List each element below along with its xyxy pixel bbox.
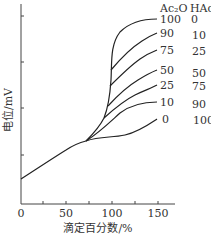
curve-ac2o-75 xyxy=(110,50,157,86)
axes xyxy=(21,4,175,204)
svg-text:0: 0 xyxy=(191,13,198,26)
x-tick-labels: 0 50 100 150 xyxy=(18,207,169,220)
svg-text:50: 50 xyxy=(59,207,73,220)
svg-text:75: 75 xyxy=(192,80,206,93)
curve-common-trunk xyxy=(21,141,86,179)
svg-text:90: 90 xyxy=(192,98,206,111)
svg-text:10: 10 xyxy=(160,96,174,109)
titration-chart: 0 50 100 150 滴定百分数/% 电位/mV xyxy=(0,0,211,236)
svg-text:150: 150 xyxy=(148,207,169,220)
y-axis-label: 电位/mV xyxy=(1,87,15,132)
svg-text:0: 0 xyxy=(18,207,25,220)
svg-text:90: 90 xyxy=(160,27,174,40)
svg-text:10: 10 xyxy=(192,29,206,42)
curve-ac2o-100 xyxy=(86,19,157,141)
svg-text:75: 75 xyxy=(160,44,174,57)
curve-ac2o-90 xyxy=(111,33,157,70)
svg-text:50: 50 xyxy=(192,67,206,80)
x-axis-label: 滴定百分数/% xyxy=(63,221,132,235)
svg-text:100: 100 xyxy=(160,13,181,26)
svg-text:100: 100 xyxy=(102,207,123,220)
svg-text:50: 50 xyxy=(160,64,174,77)
svg-text:100: 100 xyxy=(193,114,211,127)
svg-text:0: 0 xyxy=(162,113,169,126)
svg-text:25: 25 xyxy=(192,45,206,58)
legend: Ac₂O HAc 100 90 75 50 25 10 0 0 10 25 50… xyxy=(159,2,211,127)
curves xyxy=(21,19,157,179)
svg-text:25: 25 xyxy=(160,79,174,92)
